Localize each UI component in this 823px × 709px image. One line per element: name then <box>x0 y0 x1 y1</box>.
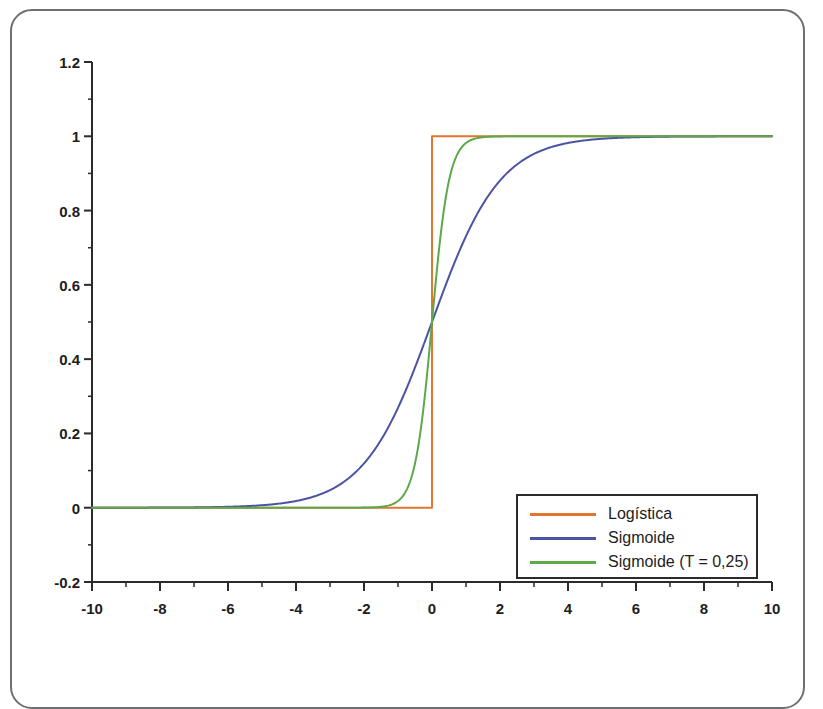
y-tick-label: 0.8 <box>10 202 80 219</box>
y-tick-label: 0.6 <box>10 276 80 293</box>
legend-label: Logística <box>608 506 672 522</box>
legend-item: Logística <box>518 502 756 526</box>
chart-legend: LogísticaSigmoideSigmoide (T = 0,25) <box>516 494 758 579</box>
y-tick-label: 1.2 <box>10 54 80 71</box>
x-tick-label: -6 <box>221 600 234 617</box>
y-tick-label: 1 <box>10 128 80 145</box>
x-tick-label: -2 <box>357 600 370 617</box>
y-tick-label: 0.2 <box>10 425 80 442</box>
y-tick-label: -0.2 <box>10 574 80 591</box>
x-tick-label: 2 <box>496 600 504 617</box>
series-lines <box>92 136 772 507</box>
x-tick-label: -8 <box>153 600 166 617</box>
legend-color-swatch <box>530 537 596 540</box>
x-tick-label: 8 <box>700 600 708 617</box>
legend-label: Sigmoide (T = 0,25) <box>608 554 749 570</box>
x-tick-label: -4 <box>289 600 302 617</box>
legend-color-swatch <box>530 513 596 516</box>
y-tick-label: 0 <box>10 499 80 516</box>
y-tick-label: 0.4 <box>10 351 80 368</box>
x-tick-label: -10 <box>81 600 103 617</box>
x-tick-label: 6 <box>632 600 640 617</box>
legend-color-swatch <box>530 561 596 564</box>
x-tick-label: 4 <box>564 600 572 617</box>
legend-item: Sigmoide (T = 0,25) <box>518 550 756 574</box>
x-tick-label: 10 <box>764 600 781 617</box>
x-tick-label: 0 <box>428 600 436 617</box>
legend-item: Sigmoide <box>518 526 756 550</box>
legend-label: Sigmoide <box>608 530 675 546</box>
